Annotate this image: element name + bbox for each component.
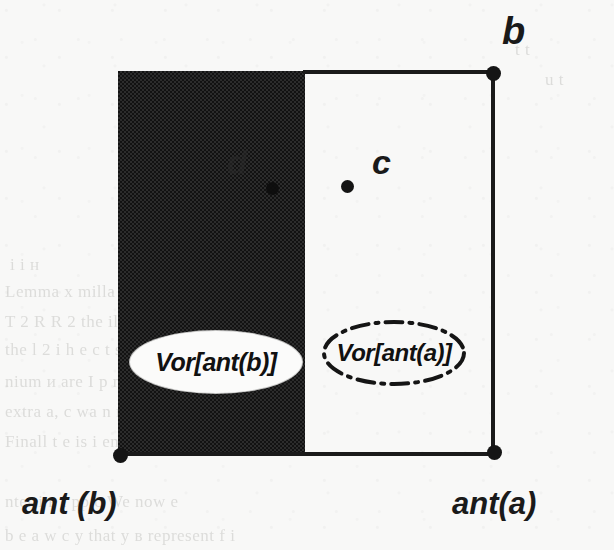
label-c: c <box>372 143 391 182</box>
label-b: b <box>502 10 525 53</box>
label-d: d <box>227 144 247 182</box>
label-ant-a: ant(a) <box>452 486 536 522</box>
label-ant-b: ant (b) <box>22 486 117 522</box>
voronoi-region-ant-b <box>118 71 305 455</box>
voronoi-figure: b c d ant (b) ant(a) Vor[ant(b)] Vor[ant… <box>0 0 614 550</box>
figure-page: t t u t i i н Lemma x milla , Sinom , С … <box>0 0 614 550</box>
vertex-point-ant-a <box>487 445 502 460</box>
box-edge-right <box>491 72 495 454</box>
region-callout-ant-a: Vor[ant(a)] <box>321 320 467 386</box>
site-point-c <box>341 180 354 193</box>
box-edge-top <box>303 70 495 74</box>
vertex-point-ant-b <box>113 448 128 463</box>
region-callout-label-ant-a: Vor[ant(a)] <box>321 320 467 386</box>
vertex-point-b <box>486 66 501 81</box>
region-callout-ant-b: Vor[ant(b)] <box>130 331 302 393</box>
region-callout-label-ant-b: Vor[ant(b)] <box>130 331 302 393</box>
site-point-d <box>266 182 279 195</box>
box-edge-bottom <box>120 452 495 456</box>
